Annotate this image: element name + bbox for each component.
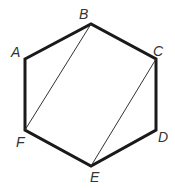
diagonal-ce [91, 59, 156, 166]
vertex-label-c: C [153, 43, 164, 59]
vertex-label-b: B [79, 6, 88, 22]
hexagon-outline [25, 24, 156, 166]
vertex-label-f: F [16, 134, 26, 150]
vertex-label-a: A [10, 44, 20, 60]
vertex-label-e: E [90, 169, 100, 185]
hexagon-diagram: A B C D E F [0, 0, 175, 188]
vertex-label-d: D [158, 129, 168, 145]
